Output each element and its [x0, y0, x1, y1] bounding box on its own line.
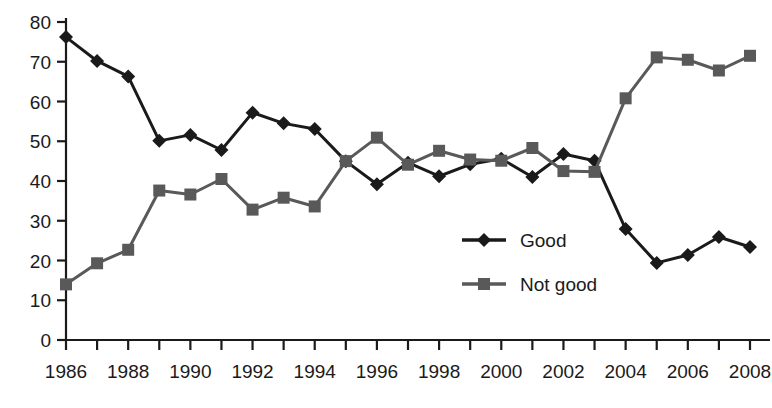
series-not-good — [60, 50, 756, 291]
data-point-marker — [744, 50, 756, 62]
data-point-marker — [477, 233, 491, 247]
x-axis-tick-label: 1986 — [45, 361, 87, 382]
x-axis-tick-label: 1988 — [107, 361, 149, 382]
data-point-marker — [464, 154, 476, 166]
data-point-marker — [183, 128, 197, 142]
data-point-marker — [91, 257, 103, 269]
data-point-marker — [152, 134, 166, 148]
data-point-marker — [184, 189, 196, 201]
x-axis-tick-label: 2000 — [480, 361, 522, 382]
y-axis-tick-label: 80 — [30, 12, 51, 33]
x-axis-tick-label: 2008 — [729, 361, 771, 382]
chart-plot-area: 01020304050607080 1986198819901992199419… — [0, 0, 772, 408]
line-chart: 01020304050607080 1986198819901992199419… — [0, 0, 772, 408]
y-axis: 01020304050607080 — [30, 12, 66, 351]
legend-label: Not good — [520, 274, 597, 295]
data-point-marker — [60, 278, 72, 290]
data-point-marker — [478, 278, 490, 290]
y-axis-tick-label: 20 — [30, 251, 51, 272]
data-point-marker — [340, 155, 352, 167]
x-axis-tick-label: 2006 — [667, 361, 709, 382]
data-point-marker — [371, 132, 383, 144]
caption-fragment — [0, 394, 772, 408]
chart-legend: GoodNot good — [462, 230, 597, 295]
data-point-marker — [681, 248, 695, 262]
data-point-marker — [713, 64, 725, 76]
y-axis-tick-label: 10 — [30, 290, 51, 311]
x-axis-tick-label: 1996 — [356, 361, 398, 382]
legend-label: Good — [520, 230, 566, 251]
series-good — [59, 30, 757, 270]
legend-item-not-good[interactable]: Not good — [462, 274, 597, 295]
y-axis-tick-label: 50 — [30, 131, 51, 152]
data-series-group — [59, 30, 757, 290]
y-axis-tick-label: 40 — [30, 171, 51, 192]
data-point-marker — [682, 54, 694, 66]
data-point-marker — [277, 116, 291, 130]
data-point-marker — [309, 200, 321, 212]
data-point-marker — [122, 244, 134, 256]
x-axis-tick-label: 1990 — [169, 361, 211, 382]
data-point-marker — [743, 240, 757, 254]
data-point-marker — [433, 145, 445, 157]
data-point-marker — [526, 142, 538, 154]
x-axis-tick-label: 2002 — [542, 361, 584, 382]
data-point-marker — [153, 185, 165, 197]
data-point-marker — [121, 69, 135, 83]
data-point-marker — [432, 169, 446, 183]
y-axis-tick-label: 60 — [30, 92, 51, 113]
data-point-marker — [402, 159, 414, 171]
data-point-marker — [215, 173, 227, 185]
x-axis: 1986198819901992199419961998200020022004… — [45, 340, 771, 382]
data-point-marker — [557, 165, 569, 177]
data-point-marker — [620, 92, 632, 104]
x-axis-tick-label: 1998 — [418, 361, 460, 382]
data-point-marker — [247, 204, 259, 216]
x-axis-tick-label: 1992 — [231, 361, 273, 382]
y-axis-tick-label: 70 — [30, 52, 51, 73]
data-point-marker — [651, 51, 663, 63]
x-axis-tick-label: 1994 — [294, 361, 337, 382]
data-point-marker — [589, 166, 601, 178]
x-axis-tick-label: 2004 — [604, 361, 647, 382]
y-axis-tick-label: 30 — [30, 211, 51, 232]
data-point-marker — [712, 230, 726, 244]
data-point-marker — [278, 192, 290, 204]
legend-item-good[interactable]: Good — [462, 230, 566, 251]
y-axis-tick-label: 0 — [40, 330, 51, 351]
data-point-marker — [495, 155, 507, 167]
